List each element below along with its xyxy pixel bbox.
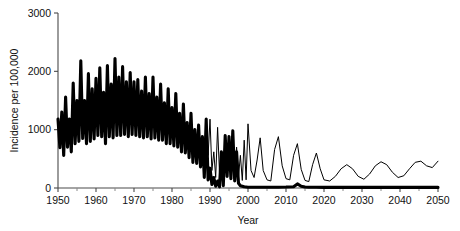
x-tick-label: 2000 [236, 194, 260, 206]
x-tick-label: 2030 [350, 194, 374, 206]
y-tick-label: 0 [45, 182, 51, 194]
x-tick-label: 1960 [84, 194, 108, 206]
incidence-chart: 0100020003000195019601970198019902000201… [0, 0, 460, 231]
y-tick-label: 3000 [28, 7, 52, 19]
x-tick-label: 2040 [388, 194, 412, 206]
series-counterfactual-projection [206, 119, 438, 181]
x-tick-label: 1990 [198, 194, 222, 206]
y-tick-label: 1000 [28, 123, 52, 135]
x-tick-label: 2020 [312, 194, 336, 206]
series-observed-incidence [58, 59, 438, 188]
x-tick-label: 2010 [274, 194, 298, 206]
x-tick-label: 1950 [46, 194, 70, 206]
y-tick-label: 2000 [28, 65, 52, 77]
y-axis-title: Incidence per 100,000 [8, 48, 20, 152]
chart-canvas: 0100020003000195019601970198019902000201… [0, 0, 460, 231]
x-axis-title: Year [237, 214, 259, 226]
x-tick-label: 1970 [122, 194, 146, 206]
x-tick-label: 1980 [160, 194, 184, 206]
x-tick-label: 2050 [426, 194, 450, 206]
